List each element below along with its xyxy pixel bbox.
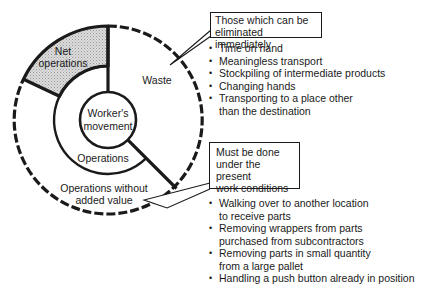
net-operations-label-line1: Net (55, 45, 71, 57)
center-label-line2: movement (83, 120, 132, 132)
callout-eliminate-pointer (170, 30, 211, 65)
operations-label: Operations (77, 152, 128, 164)
callout-must-do-title-line3: work conditions (216, 182, 295, 194)
list-item: Transporting to a place other than the d… (208, 92, 369, 117)
list-item: Meaningless transport (208, 55, 420, 68)
list-item: Removing parts in small quantity from a … (208, 247, 384, 272)
callout-must-do-title-line2: under the present (216, 158, 295, 182)
list-item: Changing hands (208, 80, 420, 93)
list-item: Removing wrappers from parts purchased f… (208, 222, 404, 247)
must-do-list: Walking over to another location to rece… (208, 197, 420, 285)
net-operations-label-line2: operations (38, 57, 87, 69)
callout-must-do-box: Must be done under the present work cond… (209, 142, 300, 189)
waste-label: Waste (142, 74, 172, 86)
list-item: Time on hand (208, 42, 420, 55)
callout-eliminate-title-line1: Those which can be (215, 14, 317, 26)
operations-without-added-value-line2: added value (75, 194, 132, 206)
center-label-line1: Worker's (88, 107, 129, 119)
callout-eliminate-box: Those which can be eliminated immediatel… (210, 12, 322, 38)
list-item: Stockpiling of intermediate products (208, 67, 420, 80)
eliminate-list: Time on hand Meaningless transport Stock… (208, 42, 420, 117)
list-item: Walking over to another location to rece… (208, 197, 369, 222)
operations-without-added-value-line1: Operations without (60, 182, 148, 194)
list-item: Handling a push button already in positi… (208, 272, 420, 285)
callout-must-do-title-line1: Must be done (216, 146, 295, 158)
